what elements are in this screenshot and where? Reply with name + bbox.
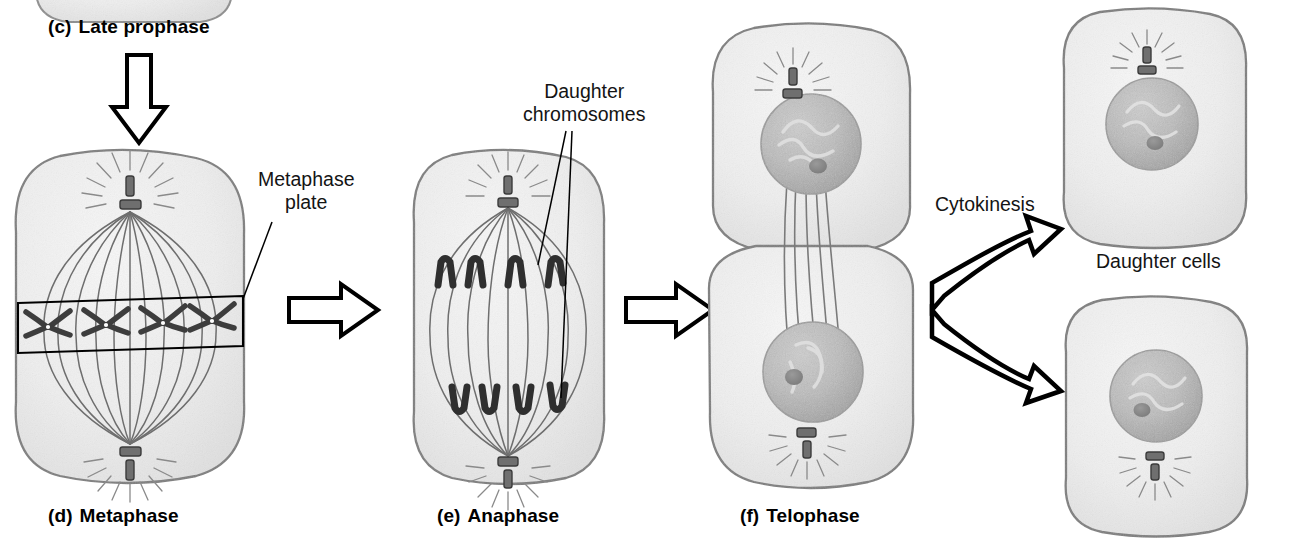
daughter-cell-bottom bbox=[1066, 296, 1248, 536]
arrow-right-icon bbox=[289, 284, 378, 336]
centriole-vertical bbox=[126, 176, 134, 196]
callout-line: Daughter bbox=[523, 80, 645, 103]
nuclear-envelope bbox=[1110, 350, 1202, 442]
callout-line: Daughter cells bbox=[1096, 250, 1221, 273]
stage-metaphase bbox=[16, 150, 272, 502]
daughter-cell-nucleus bbox=[1106, 78, 1198, 170]
arrow-down-icon bbox=[112, 55, 166, 143]
centriole-vertical bbox=[789, 68, 797, 85]
nucleolus bbox=[1147, 136, 1164, 150]
stage-letter: (e) bbox=[437, 505, 461, 526]
nucleolus bbox=[1134, 403, 1151, 417]
telophase-nucleus-upper bbox=[761, 94, 861, 194]
stage-telophase bbox=[709, 23, 913, 488]
centriole-horizontal bbox=[783, 89, 802, 98]
callout-daughter-cells: Daughter cells bbox=[1096, 250, 1221, 273]
stage-name: Metaphase bbox=[80, 505, 179, 526]
centriole-vertical bbox=[504, 176, 512, 194]
centriole-vertical bbox=[126, 460, 134, 480]
stage-label-anaphase: (e)Anaphase bbox=[437, 505, 559, 527]
stage-anaphase bbox=[414, 131, 605, 510]
centromere bbox=[210, 319, 214, 323]
callout-line: Metaphase bbox=[258, 168, 354, 191]
fork-branch-upper bbox=[932, 216, 1061, 310]
stage-letter: (c) bbox=[48, 16, 72, 37]
callout-line: chromosomes bbox=[523, 103, 645, 126]
arrow-right-icon bbox=[626, 284, 713, 336]
metaphase-plate-leader-line bbox=[243, 222, 272, 299]
fork-branch-lower bbox=[932, 310, 1061, 403]
centriole-horizontal bbox=[498, 198, 518, 207]
centriole-horizontal bbox=[498, 457, 518, 466]
centromere bbox=[46, 325, 50, 329]
centriole-horizontal bbox=[1146, 452, 1164, 460]
daughter-cell-top bbox=[1064, 8, 1247, 248]
centriole-vertical bbox=[803, 441, 811, 458]
telophase-nucleus-lower bbox=[763, 322, 863, 422]
callout-metaphase-plate: Metaphase plate bbox=[258, 168, 354, 214]
stage-label-late-prophase: (c)Late prophase bbox=[48, 16, 210, 38]
stage-name: Late prophase bbox=[79, 16, 210, 37]
centriole-horizontal bbox=[120, 447, 141, 456]
centriole-horizontal bbox=[120, 200, 141, 209]
centriole-vertical bbox=[1143, 47, 1151, 63]
nuclear-envelope bbox=[763, 322, 863, 422]
stage-label-metaphase: (d)Metaphase bbox=[48, 505, 179, 527]
stage-letter: (f) bbox=[740, 505, 759, 526]
nucleolus bbox=[809, 159, 827, 174]
nuclear-envelope bbox=[761, 94, 861, 194]
callout-line: Cytokinesis bbox=[935, 193, 1035, 216]
stage-name: Telophase bbox=[766, 505, 859, 526]
centriole-vertical bbox=[504, 470, 512, 488]
nucleolus bbox=[785, 369, 803, 385]
arrow-fork-icon bbox=[932, 216, 1061, 403]
nuclear-envelope bbox=[1106, 78, 1198, 170]
centromere bbox=[161, 321, 165, 325]
mitosis-figure: (c)Late prophase (d)Metaphase (e)Anaphas… bbox=[0, 0, 1291, 543]
callout-line: plate bbox=[258, 191, 354, 214]
centriole-vertical bbox=[1151, 464, 1159, 480]
callout-cytokinesis: Cytokinesis bbox=[935, 193, 1035, 216]
centromere bbox=[104, 323, 108, 327]
centriole-horizontal bbox=[1138, 66, 1156, 74]
centriole-horizontal bbox=[797, 428, 816, 437]
stage-label-telophase: (f)Telophase bbox=[740, 505, 860, 527]
daughter-cell-nucleus bbox=[1110, 350, 1202, 442]
stage-letter: (d) bbox=[48, 505, 73, 526]
stage-name: Anaphase bbox=[468, 505, 560, 526]
callout-daughter-chromosomes: Daughter chromosomes bbox=[523, 80, 645, 126]
